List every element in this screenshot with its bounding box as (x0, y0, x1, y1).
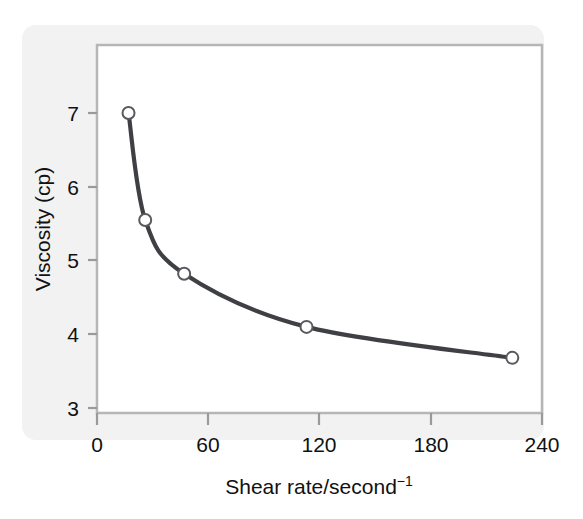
x-axis-title-superscript: −1 (397, 473, 413, 489)
data-point-marker (123, 107, 135, 119)
x-tick-label-120: 120 (301, 433, 336, 456)
x-tick-label-180: 180 (413, 433, 448, 456)
data-point-marker (506, 352, 518, 364)
svg-text:Shear rate/second−1: Shear rate/second−1 (225, 473, 413, 498)
data-point-marker (301, 321, 313, 333)
x-axis-title: Shear rate/second−1 (225, 473, 413, 498)
x-tick-label-60: 60 (196, 433, 219, 456)
x-tick-label-240: 240 (524, 433, 559, 456)
x-axis-ticks (97, 413, 542, 425)
x-tick-label-0: 0 (91, 433, 103, 456)
x-axis-title-text: Shear rate/second (225, 475, 397, 498)
figure-root: 7 6 5 4 3 0 60 120 180 240 Viscosity (cp… (0, 0, 583, 519)
data-point-marker (178, 268, 190, 280)
y-tick-label-5: 5 (67, 249, 79, 272)
viscosity-shear-rate-chart: 7 6 5 4 3 0 60 120 180 240 Viscosity (cp… (0, 0, 583, 519)
y-tick-label-3: 3 (67, 397, 79, 420)
y-axis-title: Viscosity (cp) (31, 167, 54, 291)
data-point-marker (139, 214, 151, 226)
plot-area-background (97, 45, 542, 413)
y-axis-ticks (88, 113, 97, 408)
y-tick-label-4: 4 (67, 323, 79, 346)
y-tick-label-7: 7 (67, 102, 79, 125)
y-tick-label-6: 6 (67, 176, 79, 199)
